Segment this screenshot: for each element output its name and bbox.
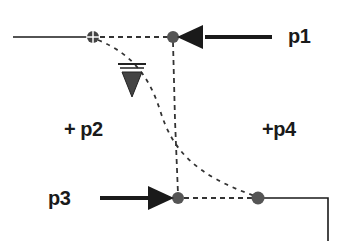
p3-arrow-icon <box>100 186 174 210</box>
vertical-dashed-line <box>173 42 178 194</box>
p1-label: p1 <box>288 26 310 46</box>
bottom-right-node-icon <box>252 192 265 205</box>
outlet-line <box>262 198 328 241</box>
p4-label: +p4 <box>262 119 296 139</box>
water-level-icon <box>118 64 146 97</box>
p1-arrow-icon <box>177 25 272 49</box>
crosshair-node-icon <box>86 30 100 44</box>
p3-label: p3 <box>48 188 70 208</box>
p2-label: + p2 <box>64 119 103 139</box>
